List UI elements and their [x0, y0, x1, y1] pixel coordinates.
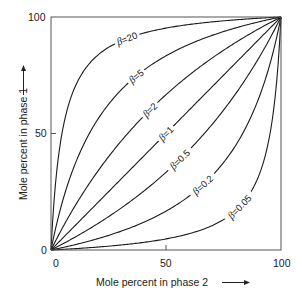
curve-label-beta-20: β=20: [112, 28, 141, 49]
x-tick-label-100: 100: [273, 257, 291, 269]
y-tick-label-100: 100: [28, 11, 46, 23]
y-tick-label-50: 50: [35, 127, 47, 139]
equilibrium-chart: β=20β=5β=2β=1β=0.5β=0.2β=0.05 100 50 0 0…: [0, 0, 302, 298]
svg-text:β=0.05: β=0.05: [225, 192, 254, 221]
x-axis-arrow-icon: [222, 280, 250, 285]
y-tick-label-0: 0: [41, 244, 47, 256]
curve-label-beta-0_05: β=0.05: [222, 189, 257, 224]
y-axis-title: Mole percent in phase 1: [17, 88, 29, 200]
x-tick-label-50: 50: [160, 257, 172, 269]
x-tick-label-0: 0: [53, 257, 59, 269]
x-axis-title: Mole percent in phase 2: [96, 276, 208, 288]
curve-label-beta-0_2: β=0.2: [187, 170, 219, 200]
curve-label-beta-0_5: β=0.5: [164, 144, 195, 175]
